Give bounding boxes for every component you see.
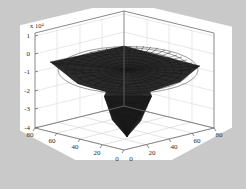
y-tick-label: 40 (72, 143, 80, 151)
x-tick-label: 40 (171, 143, 179, 151)
x-tick-label: 20 (149, 149, 157, 157)
z-tick-label: 0 (27, 50, 31, 58)
x-axis-tick-labels: 0 20 40 60 80 (129, 131, 223, 163)
surface-mesh (50, 46, 200, 137)
plot-3d-canvas: 1 0 -1 -2 -3 -4 80 60 40 20 0 0 20 40 60… (0, 0, 246, 189)
y-tick-label: 60 (49, 137, 57, 145)
y-tick-label: 80 (27, 131, 35, 139)
z-tick-label: -2 (24, 87, 30, 95)
figure-window: 1 0 -1 -2 -3 -4 80 60 40 20 0 0 20 40 60… (0, 0, 246, 189)
y-axis-tick-labels: 80 60 40 20 0 (27, 131, 120, 163)
y-tick-label: 20 (94, 149, 102, 157)
z-axis-exponent-label: x 104 (30, 22, 44, 29)
svg-text:x 104: x 104 (30, 22, 44, 29)
z-tick-label: -3 (24, 105, 30, 113)
z-axis-tick-labels: 1 0 -1 -2 -3 -4 (24, 32, 30, 132)
exponent-power: 4 (41, 22, 44, 27)
x-tick-label: 0 (129, 155, 133, 163)
z-axis-ticks (35, 35, 38, 128)
exponent-base: x 10 (30, 22, 41, 29)
x-tick-label: 80 (216, 131, 224, 139)
z-tick-label: -1 (24, 68, 30, 76)
x-tick-label: 60 (194, 137, 202, 145)
z-tick-label: 1 (27, 32, 31, 40)
y-tick-label: 0 (115, 155, 119, 163)
